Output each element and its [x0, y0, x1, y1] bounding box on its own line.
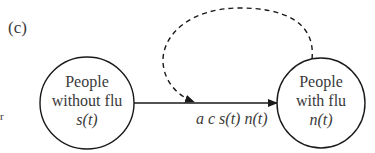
- panel-label: (c): [8, 18, 27, 37]
- node-infected: People with flu n(t): [277, 72, 365, 129]
- node-susceptible-var: s(t): [40, 110, 134, 129]
- node-susceptible-line2: without flu: [40, 91, 134, 110]
- transmission-label: a c s(t) n(t): [196, 109, 268, 128]
- edge-fragment: r: [0, 107, 4, 126]
- node-susceptible: People without flu s(t): [40, 72, 134, 129]
- node-infected-line1: People: [277, 72, 365, 91]
- node-susceptible-line1: People: [40, 72, 134, 91]
- node-infected-line2: with flu: [277, 91, 365, 110]
- node-infected-var: n(t): [277, 110, 365, 129]
